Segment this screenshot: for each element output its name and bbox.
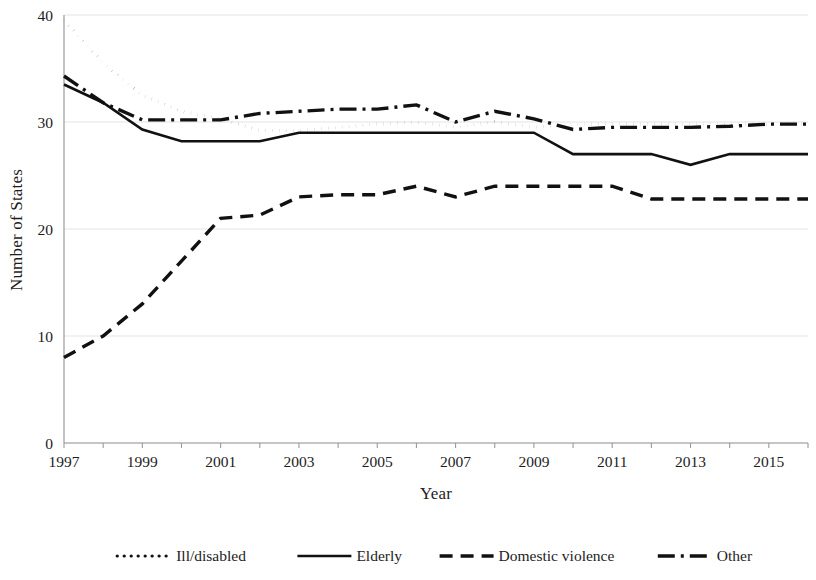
x-axis-title: Year bbox=[420, 484, 452, 503]
x-tick-label: 1997 bbox=[49, 453, 80, 470]
series-line-elderly bbox=[64, 85, 808, 165]
y-tick-label: 20 bbox=[38, 221, 54, 238]
axes-group bbox=[64, 15, 808, 448]
x-tick-label: 2005 bbox=[362, 453, 393, 470]
legend-label-other: Other bbox=[717, 547, 753, 564]
series-group bbox=[64, 20, 808, 357]
legend-label-ill-disabled: Ill/disabled bbox=[176, 547, 246, 564]
x-tick-label: 1999 bbox=[127, 453, 158, 470]
chart-legend: Ill/disabledElderlyDomestic violenceOthe… bbox=[117, 547, 753, 564]
x-tick-label: 2001 bbox=[205, 453, 236, 470]
x-tick-label: 2003 bbox=[283, 453, 314, 470]
x-tick-label: 2007 bbox=[440, 453, 471, 470]
gridlines-group bbox=[64, 15, 808, 443]
y-tick-label: 30 bbox=[38, 114, 54, 131]
y-tick-label: 10 bbox=[38, 328, 54, 345]
x-tick-labels: 1997199920012003200520072009201120132015 bbox=[49, 453, 785, 470]
y-tick-label: 0 bbox=[45, 435, 53, 452]
line-chart: 010203040 199719992001200320052007200920… bbox=[0, 0, 816, 580]
series-line-domestic-violence bbox=[64, 186, 808, 357]
y-tick-label: 40 bbox=[38, 7, 54, 24]
series-line-other bbox=[64, 76, 808, 130]
chart-figure: 010203040 199719992001200320052007200920… bbox=[0, 0, 816, 580]
y-axis-title: Number of States bbox=[7, 169, 26, 291]
x-tick-label: 2015 bbox=[753, 453, 784, 470]
legend-label-elderly: Elderly bbox=[356, 547, 402, 564]
x-tick-label: 2013 bbox=[675, 453, 706, 470]
x-tick-label: 2011 bbox=[597, 453, 627, 470]
y-tick-labels: 010203040 bbox=[38, 7, 54, 452]
legend-label-domestic-violence: Domestic violence bbox=[499, 547, 615, 564]
x-tick-label: 2009 bbox=[518, 453, 549, 470]
